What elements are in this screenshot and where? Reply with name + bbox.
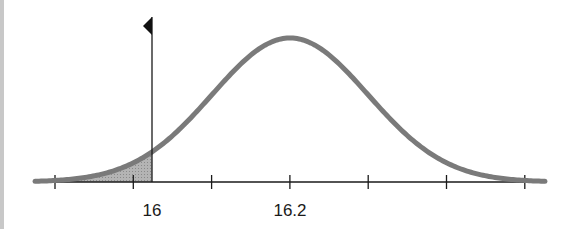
mean-value-label: 16.2 (273, 201, 306, 221)
marker-value-label: 16 (143, 201, 162, 221)
normal-curve (35, 38, 545, 181)
normal-curve-chart (0, 0, 577, 229)
flag-icon (143, 17, 152, 35)
